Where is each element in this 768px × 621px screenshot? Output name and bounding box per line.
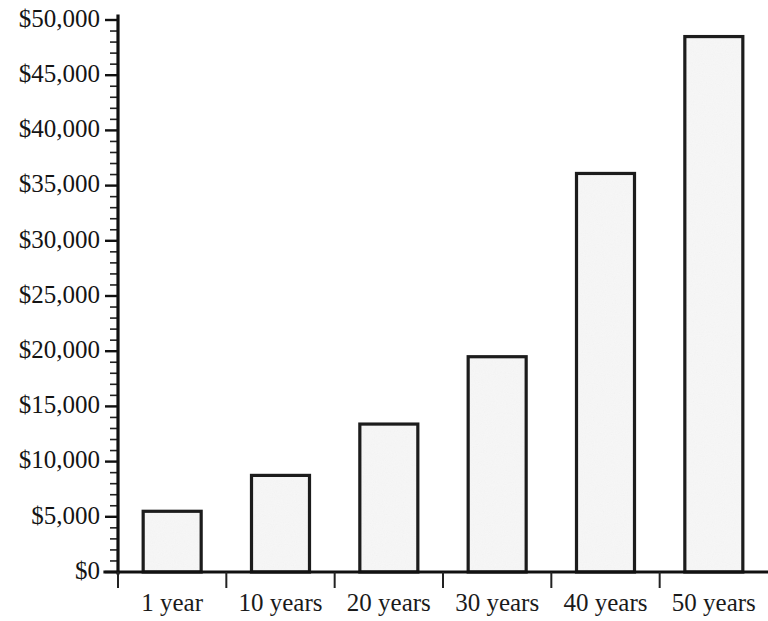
x-axis-tick-label: 50 years	[672, 589, 756, 616]
y-axis-tick-label: $15,000	[19, 391, 100, 418]
x-axis-tick-label: 10 years	[239, 589, 323, 616]
bar	[360, 424, 418, 572]
y-axis-tick-label: $10,000	[19, 446, 100, 473]
y-axis-tick-label: $0	[75, 557, 100, 584]
y-axis-tick-label: $35,000	[19, 170, 100, 197]
x-axis-tick-label: 30 years	[455, 589, 539, 616]
bar	[577, 173, 635, 572]
y-axis-tick-label: $20,000	[19, 336, 100, 363]
bar	[252, 475, 310, 572]
bar	[685, 37, 743, 572]
x-axis-tick-label: 1 year	[141, 589, 203, 616]
bar	[143, 511, 201, 572]
y-axis-tick-label: $30,000	[19, 226, 100, 253]
y-axis-tick-label: $25,000	[19, 281, 100, 308]
y-axis-tick-label: $5,000	[31, 502, 100, 529]
bar	[468, 357, 526, 572]
x-axis-tick-label: 20 years	[347, 589, 431, 616]
y-axis-tick-label: $45,000	[19, 60, 100, 87]
bar-chart: $0$5,000$10,000$15,000$20,000$25,000$30,…	[0, 0, 768, 621]
x-axis-tick-label: 40 years	[564, 589, 648, 616]
y-axis-tick-label: $50,000	[19, 5, 100, 32]
chart-canvas: $0$5,000$10,000$15,000$20,000$25,000$30,…	[0, 0, 768, 621]
y-axis-tick-label: $40,000	[19, 115, 100, 142]
